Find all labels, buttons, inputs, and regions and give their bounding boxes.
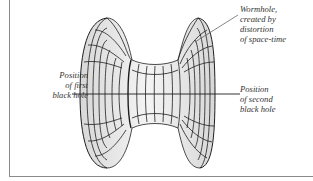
label-line: black hole [240, 104, 313, 114]
label-line: of space-time [240, 34, 313, 44]
label-line: created by [240, 14, 313, 24]
label-wormhole: Wormhole, created by distortion of space… [240, 4, 313, 44]
label-line: distortion [240, 24, 313, 34]
label-line: of second [240, 94, 313, 104]
label-line: Position [240, 84, 313, 94]
label-line: Wormhole, [240, 4, 313, 14]
label-line: black hole [24, 90, 88, 100]
wormhole-surface [80, 18, 215, 168]
label-first-black-hole: Position of first black hole [24, 70, 88, 100]
label-line: of first [24, 80, 88, 90]
label-second-black-hole: Position of second black hole [240, 84, 313, 114]
label-line: Position [24, 70, 88, 80]
